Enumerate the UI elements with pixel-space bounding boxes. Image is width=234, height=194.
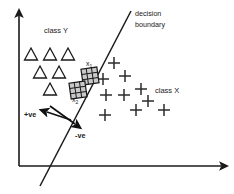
- decision-boundary-line: [40, 11, 131, 186]
- class-y-label: class Y: [44, 26, 68, 35]
- positive-direction-label: +ve: [24, 110, 36, 119]
- plus-marker: [99, 109, 111, 121]
- plus-marker: [108, 57, 120, 69]
- triangle-marker: [25, 48, 38, 60]
- plus-marker: [158, 104, 170, 116]
- plus-marker: [118, 89, 130, 101]
- support-vector-squares: [69, 67, 99, 99]
- triangle-marker: [53, 66, 66, 78]
- plus-marker: [100, 89, 112, 101]
- plus-marker: [142, 95, 154, 107]
- negative-direction-label: -ve: [75, 131, 85, 140]
- decision-boundary-group: [40, 11, 131, 186]
- plus-marker: [130, 104, 142, 116]
- triangle-marker: [62, 48, 75, 60]
- plus-marker: [119, 70, 131, 82]
- svm-decision-boundary-diagram: class Y class X decision boundary +ve -v…: [0, 0, 234, 194]
- plus-marker: [135, 83, 147, 95]
- decision-boundary-label-line2: boundary: [135, 20, 165, 29]
- text-labels-group: class Y class X decision boundary +ve -v…: [24, 9, 179, 140]
- triangle-marker: [44, 83, 57, 95]
- class-y-markers: [25, 48, 75, 95]
- normal-vectors-group: [47, 106, 75, 124]
- triangle-marker: [34, 66, 47, 78]
- decision-boundary-label-line1: decision: [135, 9, 161, 18]
- triangle-marker: [44, 48, 57, 60]
- class-x-label: class X: [155, 86, 179, 95]
